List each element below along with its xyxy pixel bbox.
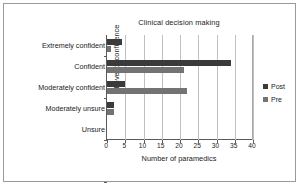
bar-pre[interactable] bbox=[107, 67, 184, 73]
bar-post[interactable] bbox=[107, 81, 125, 87]
chart-title: Clinical decision making bbox=[106, 18, 252, 27]
x-tick-label: 25 bbox=[187, 142, 207, 149]
category-band bbox=[107, 98, 252, 119]
x-gridline bbox=[253, 35, 254, 140]
y-tick-mark bbox=[104, 182, 107, 183]
y-tick-mark bbox=[104, 140, 107, 141]
bar-post[interactable] bbox=[107, 102, 114, 108]
category-band bbox=[107, 77, 252, 98]
y-category-label: Moderately unsure bbox=[0, 104, 105, 113]
x-tick-label: 5 bbox=[114, 142, 134, 149]
legend-label: Pre bbox=[271, 96, 282, 103]
legend-swatch-post bbox=[263, 84, 268, 89]
chart-figure: Clinical decision making Level of confid… bbox=[0, 0, 300, 186]
bar-pre[interactable] bbox=[107, 88, 187, 94]
legend-item-post[interactable]: Post bbox=[263, 82, 285, 90]
x-tick-label: 15 bbox=[151, 142, 171, 149]
y-category-label: Extremely confident bbox=[0, 41, 105, 50]
y-category-label: Unsure bbox=[0, 125, 105, 134]
x-tick-label: 0 bbox=[96, 142, 116, 149]
category-band bbox=[107, 56, 252, 77]
y-category-label: Moderately confident bbox=[0, 83, 105, 92]
x-axis-title: Number of paramedics bbox=[106, 154, 252, 163]
plot-area: Level of confidence Extremely confidentC… bbox=[106, 35, 252, 140]
bar-post[interactable] bbox=[107, 39, 122, 45]
chart-legend: PostPre bbox=[263, 82, 285, 108]
legend-label: Post bbox=[271, 83, 285, 90]
y-category-label: Confident bbox=[0, 62, 105, 71]
x-tick-label: 20 bbox=[169, 142, 189, 149]
bar-pre[interactable] bbox=[107, 109, 114, 115]
x-tick-label: 30 bbox=[206, 142, 226, 149]
bar-pre[interactable] bbox=[107, 46, 111, 52]
x-tick-label: 40 bbox=[242, 142, 262, 149]
category-band bbox=[107, 119, 252, 140]
legend-swatch-pre bbox=[263, 97, 268, 102]
x-tick-label: 10 bbox=[133, 142, 153, 149]
category-band bbox=[107, 35, 252, 56]
x-tick-label: 35 bbox=[224, 142, 244, 149]
bar-post[interactable] bbox=[107, 60, 231, 66]
legend-item-pre[interactable]: Pre bbox=[263, 95, 285, 103]
